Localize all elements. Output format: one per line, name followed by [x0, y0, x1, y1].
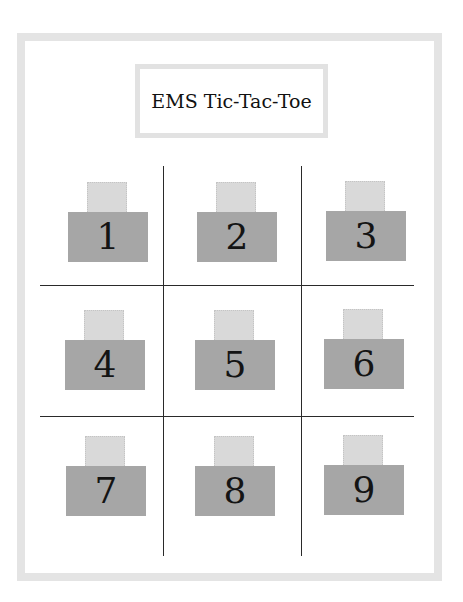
- cell-number: 5: [195, 340, 275, 390]
- grid-line-vertical-2: [301, 166, 302, 556]
- cell-tab: [84, 310, 124, 340]
- cell-number: 8: [195, 466, 275, 516]
- cell-number: 7: [66, 466, 146, 516]
- cell-tab: [85, 436, 125, 466]
- cell-tab: [214, 310, 254, 340]
- cell-number: 3: [326, 211, 406, 261]
- cell-tab: [345, 181, 385, 211]
- board-cell-2[interactable]: 2: [197, 182, 277, 262]
- cell-tab: [343, 435, 383, 465]
- cell-number: 1: [68, 212, 148, 262]
- page-title: EMS Tic-Tac-Toe: [151, 90, 311, 112]
- grid-line-horizontal-1: [40, 285, 414, 286]
- title-box: EMS Tic-Tac-Toe: [135, 64, 328, 138]
- grid-line-horizontal-2: [40, 416, 414, 417]
- board-cell-3[interactable]: 3: [326, 181, 406, 261]
- cell-number: 9: [324, 465, 404, 515]
- cell-number: 4: [65, 340, 145, 390]
- cell-number: 6: [324, 339, 404, 389]
- cell-tab: [216, 182, 256, 212]
- cell-tab: [343, 309, 383, 339]
- board-cell-8[interactable]: 8: [195, 436, 275, 516]
- board-cell-7[interactable]: 7: [66, 436, 146, 516]
- board-cell-5[interactable]: 5: [195, 310, 275, 390]
- board-cell-6[interactable]: 6: [324, 309, 404, 389]
- cell-tab: [87, 182, 127, 212]
- grid-line-vertical-1: [163, 166, 164, 556]
- board-cell-4[interactable]: 4: [65, 310, 145, 390]
- board-cell-1[interactable]: 1: [68, 182, 148, 262]
- cell-tab: [214, 436, 254, 466]
- cell-number: 2: [197, 212, 277, 262]
- board-cell-9[interactable]: 9: [324, 435, 404, 515]
